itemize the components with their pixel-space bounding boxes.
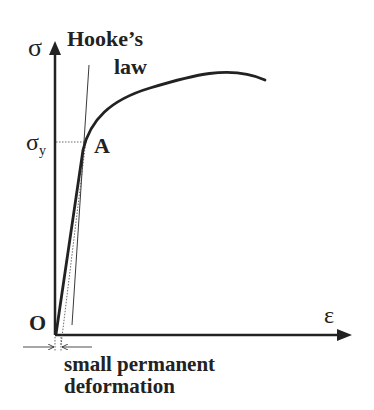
stress-strain-diagram: σ Hooke’s law σy A O ε small permanent d… [0,0,374,410]
y-axis-arrow-icon [49,41,61,55]
origin-label: O [29,310,46,335]
point-a-label: A [94,133,110,158]
x-axis-arrow-icon [337,329,352,341]
x-axis-label: ε [324,302,334,328]
yield-stress-label: σy [26,129,46,158]
permanent-deformation-label-line1: small permanent [64,352,215,376]
hookes-law-label-line1: Hooke’s [67,26,144,51]
stress-strain-curve [56,72,265,334]
permanent-deformation-label-line2: deformation [64,374,175,398]
hookes-law-label-line2: law [114,54,147,79]
y-axis-label: σ [28,33,42,62]
hookes-law-line [72,65,89,325]
